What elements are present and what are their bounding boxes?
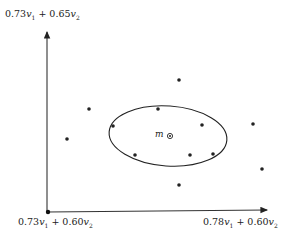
- data-point: [260, 167, 264, 171]
- scatter-diagram: [0, 0, 281, 240]
- data-point: [200, 123, 204, 127]
- x-axis: [47, 210, 267, 212]
- data-point: [211, 152, 215, 156]
- mean-point-icon: [167, 133, 172, 138]
- x-axis-label: 0.78v1 + 0.60v2: [203, 216, 278, 229]
- data-point: [111, 124, 115, 128]
- data-point: [133, 153, 137, 157]
- data-point: [177, 78, 181, 82]
- y-axis-label: 0.73v1 + 0.65v2: [5, 8, 80, 21]
- confidence-ellipse: [107, 102, 229, 170]
- data-point: [87, 107, 91, 111]
- origin-point: [46, 210, 50, 214]
- data-point: [65, 137, 69, 141]
- mean-label: m: [155, 129, 164, 139]
- data-point: [156, 107, 160, 111]
- data-point: [251, 122, 255, 126]
- data-points: [65, 78, 264, 187]
- data-point: [177, 183, 181, 187]
- data-point: [188, 153, 192, 157]
- origin-label: 0.73v1 + 0.60v2: [18, 216, 93, 229]
